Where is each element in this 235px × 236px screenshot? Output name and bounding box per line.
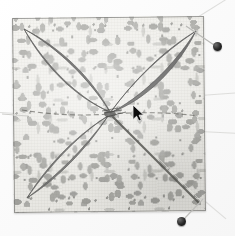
pin-head-top-right[interactable] <box>213 42 222 51</box>
pin-head-bottom-right[interactable] <box>177 217 186 226</box>
photo-canvas: Folded fabric square with four pointed p… <box>0 0 235 236</box>
fabric-print-layer-2 <box>12 16 206 213</box>
mouse-pointer-icon <box>132 104 145 122</box>
fabric-square <box>12 16 206 213</box>
